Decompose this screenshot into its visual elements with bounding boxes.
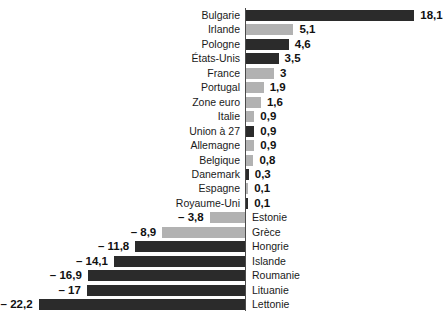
category-label: Irlande <box>208 22 240 37</box>
bar <box>87 285 245 296</box>
bar-chart: Bulgarie18,1Irlande5,1Pologne4,6États-Un… <box>0 0 447 319</box>
category-label: Zone euro <box>192 95 240 110</box>
bar <box>135 241 245 252</box>
value-label: – 14,1 <box>76 254 108 269</box>
category-label: Grèce <box>252 225 281 240</box>
value-label: 1,6 <box>267 95 283 110</box>
bar-row: Royaume-Uni0,1 <box>0 196 447 211</box>
category-label: Lettonie <box>252 297 289 312</box>
bar-row: Islande– 14,1 <box>0 254 447 269</box>
bar <box>246 68 274 79</box>
category-label: Union à 27 <box>189 124 240 139</box>
bar-row: Union à 270,9 <box>0 124 447 139</box>
value-label: 4,6 <box>295 37 311 52</box>
category-label: Pologne <box>201 37 240 52</box>
bar <box>246 155 253 166</box>
bar-row: Roumanie– 16,9 <box>0 268 447 283</box>
bar-row: Portugal1,9 <box>0 80 447 95</box>
bar-row: Espagne0,1 <box>0 181 447 196</box>
bar-row: Hongrie– 11,8 <box>0 239 447 254</box>
bar <box>246 140 254 151</box>
bar <box>246 10 414 21</box>
category-label: Belgique <box>199 153 240 168</box>
bar <box>210 212 245 223</box>
value-label: 18,1 <box>420 8 442 23</box>
bar <box>246 198 248 209</box>
bar <box>246 97 261 108</box>
category-label: Roumanie <box>252 268 300 283</box>
bar-row: France3 <box>0 66 447 81</box>
value-label: 0,9 <box>260 124 276 139</box>
value-label: 3,5 <box>285 51 301 66</box>
category-label: Italie <box>218 109 240 124</box>
value-label: 5,1 <box>299 22 315 37</box>
value-label: 0,3 <box>255 167 271 182</box>
value-label: 0,1 <box>254 181 270 196</box>
bar-row: Grèce– 8,9 <box>0 225 447 240</box>
value-label: – 3,8 <box>178 210 204 225</box>
value-label: – 11,8 <box>98 239 129 254</box>
value-label: 1,9 <box>270 80 286 95</box>
bar-row: Zone euro1,6 <box>0 95 447 110</box>
bar <box>246 169 249 180</box>
category-label: France <box>207 66 240 81</box>
category-label: Hongrie <box>252 239 289 254</box>
category-label: Bulgarie <box>201 8 240 23</box>
bar <box>162 227 245 238</box>
bar <box>114 256 245 267</box>
category-label: Portugal <box>201 80 240 95</box>
bar-row: Italie0,9 <box>0 109 447 124</box>
category-label: Danemark <box>192 167 240 182</box>
value-label: 0,1 <box>254 196 270 211</box>
bar-row: Danemark0,3 <box>0 167 447 182</box>
bar-row: Lettonie– 22,2 <box>0 297 447 312</box>
value-label: – 16,9 <box>50 268 82 283</box>
value-label: – 8,9 <box>131 225 157 240</box>
bar <box>246 126 254 137</box>
bar <box>246 183 248 194</box>
bar-row: Irlande5,1 <box>0 22 447 37</box>
bar-row: Pologne4,6 <box>0 37 447 52</box>
category-label: Royaume-Uni <box>176 196 240 211</box>
value-label: 0,9 <box>260 138 276 153</box>
bar-row: Estonie– 3,8 <box>0 210 447 225</box>
bar <box>246 82 264 93</box>
bar <box>246 39 289 50</box>
category-label: Espagne <box>199 181 240 196</box>
bar-row: États-Unis3,5 <box>0 51 447 66</box>
bar <box>246 24 293 35</box>
category-label: Estonie <box>252 210 287 225</box>
value-label: 0,8 <box>259 153 275 168</box>
value-label: – 22,2 <box>1 297 33 312</box>
value-label: 0,9 <box>260 109 276 124</box>
category-label: Allemagne <box>190 138 240 153</box>
bar <box>246 111 254 122</box>
bar-row: Allemagne0,9 <box>0 138 447 153</box>
bar <box>246 53 279 64</box>
bar-row: Bulgarie18,1 <box>0 8 447 23</box>
bar <box>39 299 245 310</box>
category-label: Lituanie <box>252 283 289 298</box>
bar-row: Belgique0,8 <box>0 153 447 168</box>
bar <box>88 270 245 281</box>
value-label: – 17 <box>59 283 81 298</box>
value-label: 3 <box>280 66 286 81</box>
category-label: Islande <box>252 254 286 269</box>
category-label: États-Unis <box>192 51 240 66</box>
bar-row: Lituanie– 17 <box>0 283 447 298</box>
